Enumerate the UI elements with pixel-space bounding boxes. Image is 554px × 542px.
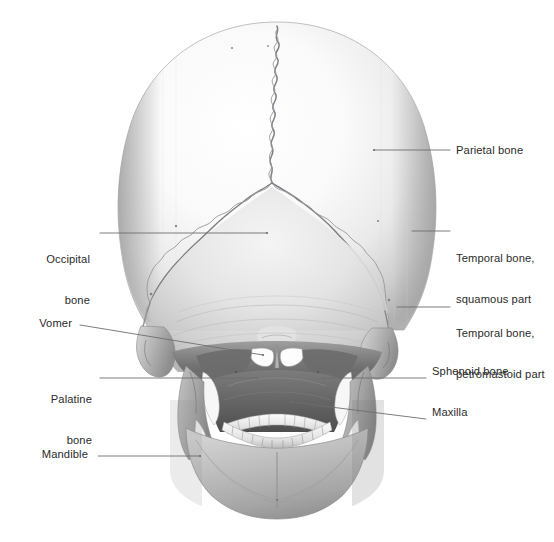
- label-line-1: Temporal bone,: [456, 327, 554, 341]
- label-maxilla: Maxilla: [432, 406, 468, 420]
- label-sphenoid-bone: Sphenoid bone: [432, 365, 509, 379]
- label-line-1: Palatine: [0, 393, 92, 407]
- label-vomer: Vomer: [0, 317, 72, 331]
- label-temporal-bone-petromastoid-part: Temporal bone, petromastoid part: [456, 300, 554, 409]
- label-line-1: Occipital: [0, 253, 90, 267]
- label-line-2: bone: [0, 434, 92, 448]
- cranial-vault: [118, 20, 438, 372]
- label-parietal-bone: Parietal bone: [456, 144, 523, 158]
- label-mandible: Mandible: [0, 448, 88, 462]
- label-line-1: Temporal bone,: [456, 252, 552, 266]
- label-line-2: bone: [0, 294, 90, 308]
- skull-posterior-figure: Parietal bone Temporal bone, squamous pa…: [0, 0, 554, 542]
- mastoid-process-left: [137, 326, 176, 377]
